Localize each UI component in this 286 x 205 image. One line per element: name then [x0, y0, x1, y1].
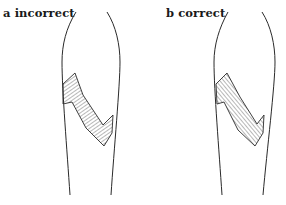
panel-a-outline-right: [107, 12, 120, 195]
panel-b-diagram: [214, 12, 275, 195]
panel-b-outline-right: [262, 12, 275, 195]
panel-b-hatched-band: [216, 73, 264, 146]
panel-a-hatched-band: [63, 73, 113, 146]
panel-a-diagram: [62, 12, 120, 195]
diagram-canvas: [0, 0, 286, 205]
